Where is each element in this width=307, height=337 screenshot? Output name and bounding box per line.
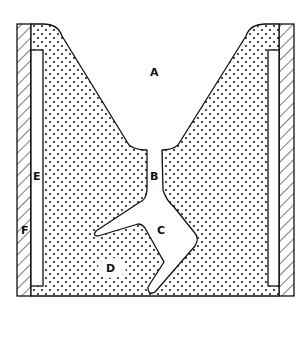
left-liner-strip xyxy=(31,50,43,286)
label-d: D xyxy=(106,262,115,275)
stippled-mold-body xyxy=(31,24,279,296)
left-hatched-wall xyxy=(17,24,31,296)
label-c: C xyxy=(157,224,165,237)
label-b: B xyxy=(150,170,158,183)
mold-cross-section-diagram: A B C D E F xyxy=(0,0,307,337)
label-e: E xyxy=(33,170,41,183)
right-liner-strip xyxy=(268,50,279,286)
right-hatched-wall xyxy=(279,24,294,296)
label-f: F xyxy=(21,224,29,237)
label-a: A xyxy=(150,66,159,79)
